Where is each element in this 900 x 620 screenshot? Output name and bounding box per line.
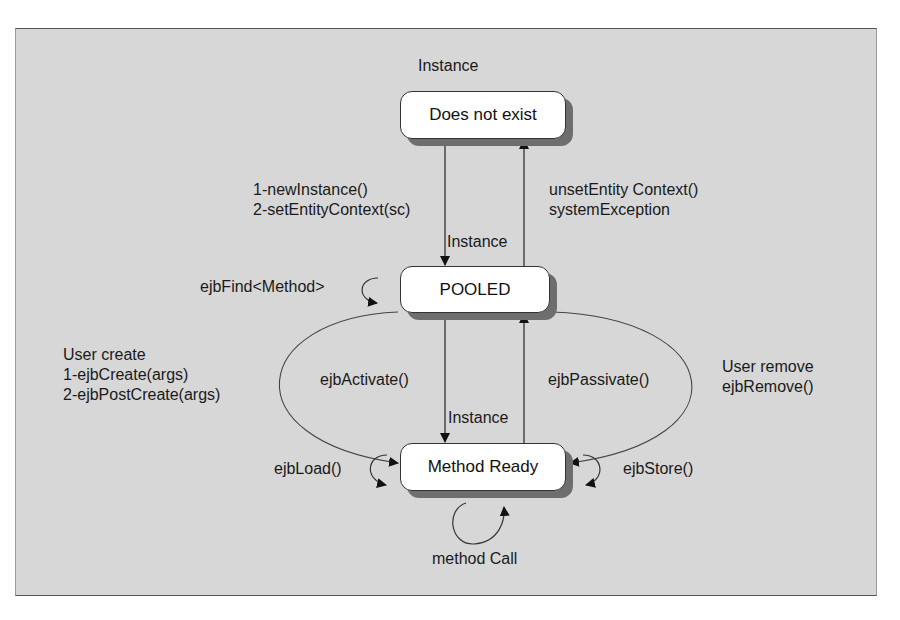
destroy-instance-label-2: systemException [549,200,670,220]
ejbstore-label: ejbStore() [623,459,693,479]
state-label: Method Ready [428,457,539,477]
destroy-instance-label-1: unsetEntity Context() [549,180,698,200]
user-create-label-3: 2-ejbPostCreate(args) [63,385,220,405]
method-call-label: method Call [432,549,517,569]
ejbpassivate-label: ejbPassivate() [548,370,649,390]
ejbactivate-label: ejbActivate() [320,370,409,390]
user-create-label-1: User create [63,345,146,365]
state-label: Does not exist [429,105,537,125]
instance-tag-bottom: Instance [448,408,508,428]
state-pooled: POOLED [400,266,550,313]
state-does-not-exist: Does not exist [400,91,566,139]
create-instance-label-2: 2-setEntityContext(sc) [253,200,410,220]
state-method-ready: Method Ready [400,443,566,491]
ejbload-label: ejbLoad() [274,459,342,479]
state-label: POOLED [440,280,511,300]
user-create-label-2: 1-ejbCreate(args) [63,365,188,385]
instance-tag-top: Instance [447,232,507,252]
diagram-title: Instance [418,56,478,76]
user-remove-label-2: ejbRemove() [722,377,814,397]
user-remove-label-1: User remove [722,357,814,377]
create-instance-label-1: 1-newInstance() [253,180,368,200]
ejbfind-label: ejbFind<Method> [200,277,325,297]
